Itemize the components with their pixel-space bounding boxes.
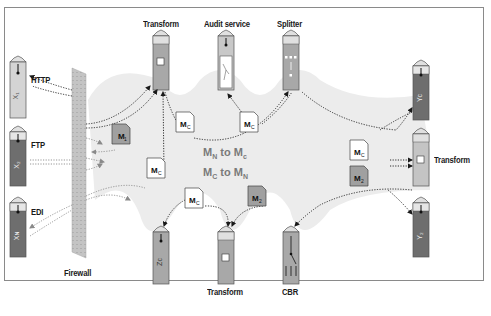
svg-text:M: M [354, 174, 361, 183]
svg-text:Xɴ: Xɴ [13, 232, 20, 241]
svg-text:X₁: X₁ [12, 92, 19, 100]
message-m2-right: M2 [350, 166, 368, 186]
svg-text:2: 2 [361, 178, 364, 184]
message-mc-5: MC [350, 140, 368, 160]
svg-text:C: C [158, 170, 162, 176]
label-transform-right: Transform [434, 155, 470, 165]
svg-text:X₂: X₂ [13, 161, 20, 169]
label-edi: EDI [31, 207, 43, 217]
svg-text:C: C [187, 124, 191, 130]
svg-text:2: 2 [259, 198, 262, 204]
firewall [72, 68, 86, 258]
label-http: HTTP [31, 75, 50, 85]
svg-text:1: 1 [124, 136, 127, 142]
label-firewall: Firewall [64, 268, 91, 278]
service-splitter [283, 30, 299, 90]
svg-text:C: C [251, 124, 255, 130]
label-transform-bottom: Transform [207, 287, 243, 297]
endpoint-xn: Xɴ [10, 197, 26, 257]
svg-text:M: M [189, 196, 196, 205]
endpoint-yc: Yc [413, 60, 429, 120]
svg-text:C: C [196, 200, 200, 206]
service-transform-bottom [218, 226, 234, 284]
svg-text:Yc: Yc [416, 93, 423, 102]
label-cbr: CBR [282, 287, 298, 297]
label-splitter: Splitter [277, 19, 302, 29]
message-m1: M1 [112, 124, 130, 144]
svg-text:C: C [361, 152, 365, 158]
svg-text:Zc: Zc [156, 258, 163, 266]
svg-text:M: M [354, 148, 361, 157]
label-mc-to-mn: MC to MN [203, 166, 248, 180]
label-transform-top: Transform [143, 19, 179, 29]
label-mn-to-mc: MN to Mc [203, 146, 247, 160]
service-cbr [283, 226, 299, 284]
message-mc-3: MC [147, 158, 165, 178]
endpoint-x2: X₂ [10, 126, 26, 186]
endpoint-transform-right [413, 128, 429, 186]
svg-text:M: M [252, 194, 259, 203]
endpoint-x1: X₁ [10, 56, 26, 118]
service-audit [218, 30, 234, 90]
message-mc-1: MC [176, 112, 194, 132]
service-transform-top [153, 30, 169, 90]
service-zc: Zc [153, 226, 169, 284]
svg-text:M: M [151, 166, 158, 175]
svg-text:M: M [244, 120, 251, 129]
message-m2-center: M2 [248, 186, 266, 206]
message-mc-2: MC [240, 112, 258, 132]
svg-text:Y₂: Y₂ [416, 232, 423, 240]
label-ftp: FTP [31, 140, 45, 150]
message-mc-4: MC [185, 188, 203, 208]
endpoint-y2: Y₂ [413, 197, 429, 257]
svg-text:M: M [180, 120, 187, 129]
bus-shading [88, 70, 430, 231]
label-audit-service: Audit service [204, 19, 250, 29]
